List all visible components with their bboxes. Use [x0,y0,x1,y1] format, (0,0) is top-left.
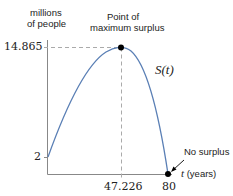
end-point [165,171,171,177]
no-surplus-label: No surplus [184,146,229,157]
x-axis-variable: t [181,167,184,179]
peak-annotation-line2: maximum surplus [90,22,156,33]
max-point [118,45,124,51]
x-axis-unit: (years) [187,168,217,179]
y-axis-label-line2: of people [27,18,66,29]
curve-label: S(t) [155,62,174,78]
x-axis-label: t (years) [181,168,216,179]
x-tick-label-max: 47.226 [104,180,143,193]
surplus-curve [48,47,168,174]
peak-annotation: Point of maximum surplus [90,11,156,33]
y-axis-label: millions of people [27,7,66,29]
y-axis-label-line1: millions [27,7,66,18]
x-tick-label-end: 80 [162,180,176,193]
peak-annotation-line1: Point of [90,11,156,22]
y-tick-label-max: 14.865 [4,40,43,53]
y-tick-label-start: 2 [34,150,41,163]
